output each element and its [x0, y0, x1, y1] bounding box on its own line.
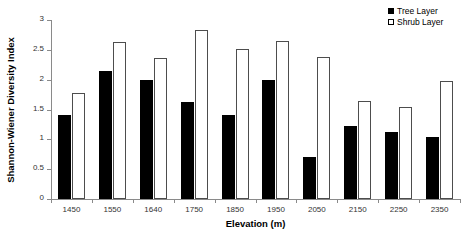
bar-tree-layer [181, 102, 194, 199]
bar-shrub-layer [72, 93, 85, 199]
shannon-wiener-diversity-bar-chart: Tree Layer Shrub Layer Shannon-Wiener Di… [0, 0, 471, 249]
bar-tree-layer [426, 137, 439, 199]
y-axis-line [51, 20, 52, 199]
bar-shrub-layer [358, 101, 371, 199]
x-tick [92, 199, 93, 203]
bar-group [58, 20, 85, 199]
x-tick-label-1850: 1850 [215, 205, 256, 214]
x-tick [378, 199, 379, 203]
bar-tree-layer [262, 80, 275, 199]
bar-shrub-layer [440, 81, 453, 199]
x-tick-label-1550: 1550 [92, 205, 133, 214]
x-tick [51, 199, 52, 203]
y-axis-title: Shannon-Wiener Diversity Index [4, 10, 18, 210]
plot-area: 00.511.522.53 14501550164017501850195020… [51, 20, 460, 199]
x-axis-title: Elevation (m) [51, 218, 460, 229]
y-tick-label-2: 2 [40, 74, 44, 83]
bar-group [262, 20, 289, 199]
y-tick-label-1.5: 1.5 [33, 104, 44, 113]
y-tick-label-3: 3 [40, 14, 44, 23]
legend-label-tree-layer: Tree Layer [397, 6, 438, 16]
x-tick [133, 199, 134, 203]
bar-group [140, 20, 167, 199]
y-tick-2.5: 2.5 [47, 50, 51, 51]
bar-group [426, 20, 453, 199]
x-tick [419, 199, 420, 203]
y-tick-label-1: 1 [40, 133, 44, 142]
x-tick-label-1450: 1450 [51, 205, 92, 214]
bar-shrub-layer [195, 30, 208, 199]
x-tick-label-1750: 1750 [174, 205, 215, 214]
x-tick-label-1640: 1640 [133, 205, 174, 214]
y-tick-1.5: 1.5 [47, 110, 51, 111]
bar-group [181, 20, 208, 199]
y-tick-label-2.5: 2.5 [33, 44, 44, 53]
bar-tree-layer [99, 71, 112, 199]
bar-shrub-layer [154, 58, 167, 199]
x-tick [256, 199, 257, 203]
bar-group [303, 20, 330, 199]
bar-group [99, 20, 126, 199]
bar-tree-layer [385, 132, 398, 199]
y-tick-2: 2 [47, 80, 51, 81]
x-tick-label-1950: 1950 [256, 205, 297, 214]
x-tick [174, 199, 175, 203]
filled-square-icon [388, 8, 394, 14]
bar-group [344, 20, 371, 199]
legend-entry-tree-layer: Tree Layer [388, 6, 443, 16]
x-tick-label-2050: 2050 [296, 205, 337, 214]
bar-group [385, 20, 412, 199]
x-tick [296, 199, 297, 203]
y-tick-0.5: 0.5 [47, 169, 51, 170]
bar-tree-layer [222, 115, 235, 199]
bar-tree-layer [344, 126, 357, 199]
bar-shrub-layer [236, 49, 249, 199]
bar-shrub-layer [399, 107, 412, 199]
y-tick-3: 3 [47, 20, 51, 21]
x-tick-label-2150: 2150 [337, 205, 378, 214]
x-tick [337, 199, 338, 203]
y-tick-1: 1 [47, 139, 51, 140]
y-tick-label-0: 0 [40, 193, 44, 202]
bar-tree-layer [58, 115, 71, 199]
y-tick-label-0.5: 0.5 [33, 163, 44, 172]
bar-tree-layer [303, 157, 316, 199]
x-tick-label-2250: 2250 [378, 205, 419, 214]
bar-tree-layer [140, 80, 153, 199]
bar-shrub-layer [276, 41, 289, 199]
bar-shrub-layer [113, 42, 126, 199]
x-tick-label-2350: 2350 [419, 205, 460, 214]
bar-group [222, 20, 249, 199]
x-tick [215, 199, 216, 203]
bar-shrub-layer [317, 57, 330, 199]
x-tick [460, 199, 461, 203]
